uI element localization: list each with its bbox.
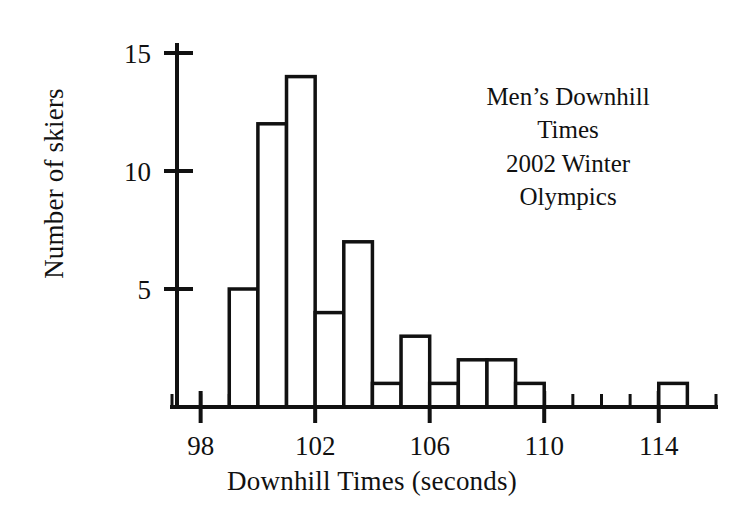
y-axis-tick-labels: 51015 <box>124 39 151 305</box>
y-tick-label: 15 <box>124 39 151 69</box>
histogram-bar <box>516 383 545 407</box>
histogram-bar <box>258 124 287 407</box>
histogram-bars <box>229 77 687 407</box>
histogram-bar <box>315 313 344 407</box>
x-tick-label: 98 <box>187 431 214 461</box>
x-axis-tick-labels: 98102106110114 <box>187 431 679 461</box>
x-tick-label: 110 <box>524 431 564 461</box>
histogram-plot: 98102106110114 51015 <box>0 0 744 526</box>
histogram-bar <box>401 336 430 407</box>
x-tick-label: 106 <box>409 431 450 461</box>
histogram-bar <box>659 383 688 407</box>
x-tick-label: 114 <box>639 431 679 461</box>
histogram-bar <box>487 360 516 407</box>
histogram-bar <box>344 242 373 407</box>
histogram-bar <box>430 383 459 407</box>
histogram-bar <box>229 289 258 407</box>
y-tick-label: 5 <box>138 275 152 305</box>
x-tick-label: 102 <box>295 431 336 461</box>
histogram-bar <box>458 360 487 407</box>
chart-page: Number of skiers Downhill Times (seconds… <box>0 0 744 526</box>
histogram-bar <box>372 383 401 407</box>
y-tick-label: 10 <box>124 157 151 187</box>
histogram-bar <box>287 77 316 407</box>
